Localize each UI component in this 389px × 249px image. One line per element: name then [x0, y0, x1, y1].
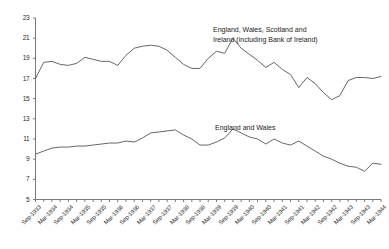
y-axis-tick-label: 11: [14, 135, 30, 142]
annotation-line: Ireland (including Bank of Ireland): [213, 35, 318, 45]
series-label-england-wales: England and Wales: [215, 123, 275, 133]
y-axis-tick-label: 13: [14, 115, 30, 122]
annotation-line: England and Wales: [215, 123, 275, 133]
y-axis-tick-label: 7: [14, 175, 30, 182]
y-axis-tick-label: 15: [14, 95, 30, 102]
chart-container: 57911131517192123 Sep-1933Mar-1934Sep-19…: [0, 0, 389, 249]
annotation-line: England, Wales, Scotland and: [213, 25, 318, 35]
y-axis-tick-label: 23: [14, 14, 30, 21]
y-axis-tick-label: 19: [14, 54, 30, 61]
series-line-1: [36, 129, 382, 171]
chart-series-lines: [36, 38, 382, 171]
y-axis-tick-label: 9: [14, 155, 30, 162]
y-axis-tick-label: 21: [14, 34, 30, 41]
y-axis-tick-label: 5: [14, 196, 30, 203]
chart-axes: [36, 18, 382, 200]
y-axis-tick-label: 17: [14, 75, 30, 82]
series-line-0: [36, 38, 382, 100]
series-label-uk-ireland: England, Wales, Scotland andIreland (inc…: [213, 25, 318, 44]
